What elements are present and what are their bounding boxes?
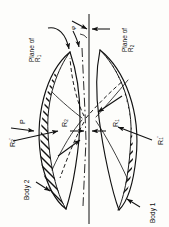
arrow-body-1 [127, 199, 140, 207]
arrow-r1-prime [118, 127, 152, 140]
label-phi-angle: φ [70, 26, 76, 30]
label-r1: R1 [113, 119, 121, 127]
plane-of-r2-line2: R2 [128, 28, 136, 52]
label-body-1: Body 1 [150, 203, 157, 224]
dash-upper-left [70, 58, 84, 116]
axes [82, 14, 89, 224]
label-body-2: Body 2 [24, 180, 31, 201]
dash-lower-left [60, 122, 84, 178]
label-r2: R2 [62, 119, 70, 127]
arrow-upper-right-construction [98, 96, 122, 112]
label-r2-prime: R2' [9, 138, 17, 147]
label-r1-prime: R1' [157, 136, 165, 145]
contact-geometry-figure: Plane of R1 Plane of R2 φ P R2' R2 R1 R1… [0, 0, 169, 227]
body-1-meridian-upper [96, 80, 128, 117]
arrow-phi [73, 31, 79, 47]
body-2-meridian-upper [52, 92, 82, 118]
label-plane-of-r1: Plane of R1 [29, 38, 43, 62]
construction-dashes [60, 58, 124, 178]
arrow-plane-of-r1 [48, 28, 69, 49]
body-1-hatching [74, 30, 150, 227]
phi-angle-arc [80, 34, 87, 38]
plane-of-r1-line2: R1 [35, 38, 43, 62]
label-load-p: P [20, 119, 27, 124]
body-2-outer-arc [39, 52, 70, 209]
body-1-inner-arc [97, 50, 119, 210]
arrow-load-p [11, 128, 34, 131]
body-2-hatching [20, 40, 96, 227]
label-plane-of-r2: Plane of R2 [122, 28, 136, 52]
body-2-band-edge [48, 52, 70, 209]
arrow-r2-prime [13, 131, 58, 141]
center-dash-dot-axis [82, 48, 86, 206]
body-2-meridian-lower [52, 120, 82, 170]
